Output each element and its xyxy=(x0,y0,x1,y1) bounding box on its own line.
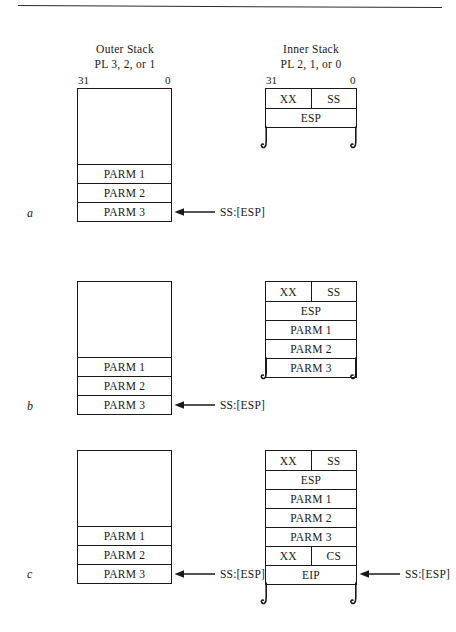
panel-letter-c: c xyxy=(27,568,32,580)
panel-c-inner-cell-parm1: PARM 1 xyxy=(266,489,356,508)
panel-b-outer-empty-region xyxy=(78,282,171,357)
arrow-left-icon xyxy=(173,568,219,580)
panel-b-outer-cell-parm3: PARM 3 xyxy=(78,395,171,414)
panel-c-inner-cell-parm3: PARM 3 xyxy=(266,527,356,546)
bit-label-inner-high: 31 xyxy=(266,75,277,86)
panel-c-outer-stack: PARM 1 PARM 2 PARM 3 xyxy=(77,450,172,584)
panel-a-inner-cell-xx: XX xyxy=(266,89,311,108)
panel-b-outer-stack: PARM 1 PARM 2 PARM 3 xyxy=(77,281,172,415)
column-heading-inner-line1: Inner Stack xyxy=(264,42,358,57)
panel-a-outer-cell-parm2: PARM 2 xyxy=(78,183,171,202)
panel-a-outer-stack: PARM 1 PARM 2 PARM 3 xyxy=(77,88,172,222)
panel-c-inner-cell-xx-ss: XX SS xyxy=(266,451,356,470)
panel-b-inner-cell-ss: SS xyxy=(311,282,357,301)
column-heading-inner-stack: Inner Stack PL 2, 1, or 0 xyxy=(264,42,358,72)
panel-a-inner-cell-ss: SS xyxy=(311,89,357,108)
arrow-left-icon xyxy=(173,206,219,218)
panel-b-inner-cell-esp: ESP xyxy=(266,301,356,320)
column-heading-outer-line1: Outer Stack xyxy=(77,42,173,57)
panel-c-inner-cell-xx: XX xyxy=(266,451,311,470)
column-heading-outer-line2: PL 3, 2, or 1 xyxy=(77,57,173,72)
panel-a-pointer-label: SS:[ESP] xyxy=(220,206,265,218)
panel-b-outer-cell-parm2: PARM 2 xyxy=(78,376,171,395)
panel-c-inner-stack-torn-edge xyxy=(265,583,359,608)
panel-letter-a: a xyxy=(27,207,33,219)
panel-c-outer-empty-region xyxy=(78,451,171,526)
bit-label-outer-high: 31 xyxy=(78,75,89,86)
panel-b-inner-cell-parm3: PARM 3 xyxy=(266,358,356,377)
panel-a-outer-stack-pointer: SS:[ESP] xyxy=(173,205,265,219)
panel-c-inner-stack: XX SS ESP PARM 1 PARM 2 PARM 3 XX CS EIP xyxy=(265,450,357,585)
panel-b-pointer-label: SS:[ESP] xyxy=(220,399,265,411)
panel-b-inner-cell-parm2: PARM 2 xyxy=(266,339,356,358)
bit-label-outer-low: 0 xyxy=(165,75,171,86)
column-heading-inner-line2: PL 2, 1, or 0 xyxy=(264,57,358,72)
column-heading-outer-stack: Outer Stack PL 3, 2, or 1 xyxy=(77,42,173,72)
panel-b-outer-stack-pointer: SS:[ESP] xyxy=(173,398,265,412)
panel-c-outer-cell-parm2: PARM 2 xyxy=(78,545,171,564)
arrow-left-icon xyxy=(173,399,219,411)
panel-a-inner-stack-torn-edge xyxy=(265,127,359,152)
bit-label-inner-low: 0 xyxy=(350,75,356,86)
page-top-rule xyxy=(18,5,442,8)
panel-c-inner-cell-ss: SS xyxy=(311,451,357,470)
arrow-left-icon xyxy=(358,568,404,580)
panel-c-outer-stack-pointer: SS:[ESP] xyxy=(173,567,265,581)
panel-a-inner-cell-esp: ESP xyxy=(266,108,356,127)
panel-c-inner-cell-esp: ESP xyxy=(266,470,356,489)
panel-c-inner-cell-eip: EIP xyxy=(266,565,356,584)
panel-c-inner-cell-cs: CS xyxy=(311,547,357,565)
panel-c-outer-cell-parm3: PARM 3 xyxy=(78,564,171,583)
panel-a-inner-cell-xx-ss: XX SS xyxy=(266,89,356,108)
panel-a-inner-stack: XX SS ESP xyxy=(265,88,357,128)
panel-letter-b: b xyxy=(27,400,33,412)
panel-c-outer-cell-parm1: PARM 1 xyxy=(78,526,171,545)
panel-b-outer-cell-parm1: PARM 1 xyxy=(78,357,171,376)
panel-a-outer-cell-parm1: PARM 1 xyxy=(78,164,171,183)
panel-b-inner-cell-xx-ss: XX SS xyxy=(266,282,356,301)
panel-a-outer-cell-parm3: PARM 3 xyxy=(78,202,171,221)
panel-b-inner-stack: XX SS ESP PARM 1 PARM 2 PARM 3 xyxy=(265,281,357,378)
panel-c-inner-pointer-label: SS:[ESP] xyxy=(405,568,450,580)
panel-b-inner-cell-parm1: PARM 1 xyxy=(266,320,356,339)
panel-c-inner-stack-pointer: SS:[ESP] xyxy=(358,567,450,581)
panel-a-outer-empty-region xyxy=(78,89,171,164)
panel-c-inner-cell-xx-2: XX xyxy=(266,547,311,565)
panel-c-outer-pointer-label: SS:[ESP] xyxy=(220,568,265,580)
panel-b-inner-cell-xx: XX xyxy=(266,282,311,301)
panel-c-inner-cell-parm2: PARM 2 xyxy=(266,508,356,527)
panel-c-inner-cell-xx-cs: XX CS xyxy=(266,546,356,565)
